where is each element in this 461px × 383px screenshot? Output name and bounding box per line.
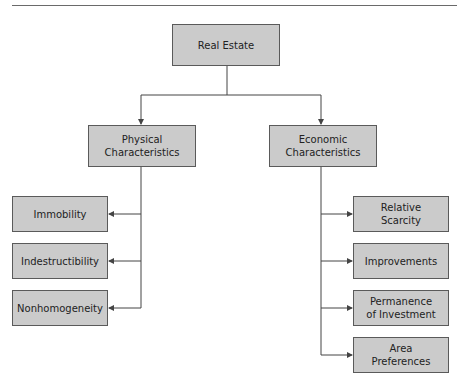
- node-nonhomogeneity: Nonhomogeneity: [12, 290, 108, 326]
- node-label: Real Estate: [198, 39, 254, 52]
- node-label: Indestructibility: [21, 255, 99, 268]
- node-improvements: Improvements: [353, 243, 449, 279]
- node-label: Improvements: [365, 255, 437, 268]
- node-label: Economic Characteristics: [286, 133, 361, 159]
- node-real-estate: Real Estate: [172, 24, 280, 66]
- node-label: Permanence of Investment: [366, 295, 435, 321]
- node-relative-scarcity: Relative Scarcity: [353, 196, 449, 232]
- node-area-preferences: Area Preferences: [353, 337, 449, 373]
- node-label: Area Preferences: [372, 342, 431, 368]
- node-label: Physical Characteristics: [105, 133, 180, 159]
- node-immobility: Immobility: [12, 196, 108, 232]
- node-label: Relative Scarcity: [381, 201, 421, 227]
- node-label: Nonhomogeneity: [17, 302, 103, 315]
- node-label: Immobility: [33, 208, 86, 221]
- node-economic-characteristics: Economic Characteristics: [269, 125, 377, 167]
- node-physical-characteristics: Physical Characteristics: [88, 125, 196, 167]
- node-indestructibility: Indestructibility: [12, 243, 108, 279]
- node-permanence-of-investment: Permanence of Investment: [353, 290, 449, 326]
